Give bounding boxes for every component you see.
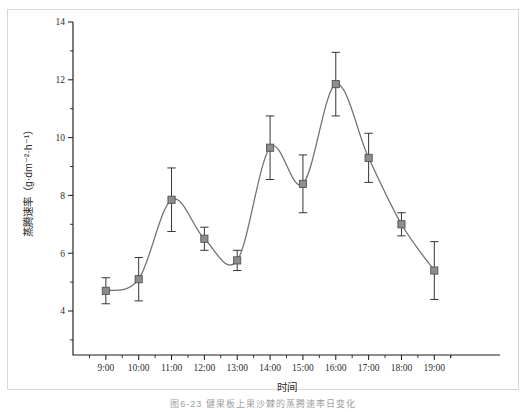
chart-plot-area: 4681012149:0010:0011:0012:0013:0014:0015… <box>0 0 526 412</box>
axis-ticks-group <box>68 22 451 360</box>
y-tick-label: 8 <box>60 191 65 201</box>
data-line <box>106 84 434 291</box>
data-markers-group <box>102 81 438 295</box>
data-marker <box>168 196 175 203</box>
x-tick-label: 9:00 <box>97 363 114 373</box>
axis-spines <box>73 22 500 355</box>
data-marker <box>234 257 241 264</box>
data-marker <box>201 235 208 242</box>
x-tick-label: 10:00 <box>128 363 150 373</box>
x-tick-label: 13:00 <box>226 363 248 373</box>
axes-group <box>73 22 500 355</box>
y-tick-label: 6 <box>60 249 65 259</box>
figure-caption: 图6-23 健果板上果沙棘的蒸腾速率日变化 <box>0 397 526 410</box>
transpiration-rate-line-chart: 4681012149:0010:0011:0012:0013:0014:0015… <box>0 0 526 412</box>
y-tick-label: 4 <box>60 306 65 316</box>
data-marker <box>332 81 339 88</box>
figure-root: 4681012149:0010:0011:0012:0013:0014:0015… <box>0 0 526 412</box>
data-marker <box>431 267 438 274</box>
axis-titles-group: 时间蒸腾速率（g·dm⁻²·h⁻¹） <box>22 125 297 393</box>
x-tick-label: 15:00 <box>292 363 314 373</box>
x-tick-label: 12:00 <box>194 363 216 373</box>
x-tick-label: 11:00 <box>161 363 183 373</box>
y-tick-label: 10 <box>56 133 66 143</box>
y-axis-title: 蒸腾速率（g·dm⁻²·h⁻¹） <box>22 125 34 237</box>
x-tick-label: 19:00 <box>423 363 445 373</box>
data-marker <box>398 221 405 228</box>
x-tick-label: 14:00 <box>259 363 281 373</box>
data-marker <box>102 287 109 294</box>
x-axis-title: 时间 <box>277 381 297 393</box>
data-marker <box>299 180 306 187</box>
y-tick-label: 14 <box>56 17 66 27</box>
data-marker <box>365 154 372 161</box>
data-marker <box>135 276 142 283</box>
x-tick-label: 16:00 <box>325 363 347 373</box>
error-bars-group <box>102 52 439 303</box>
data-series-group <box>106 84 434 291</box>
x-tick-label: 17:00 <box>358 363 380 373</box>
y-tick-label: 12 <box>56 75 66 85</box>
data-marker <box>266 144 273 151</box>
x-tick-label: 18:00 <box>391 363 413 373</box>
